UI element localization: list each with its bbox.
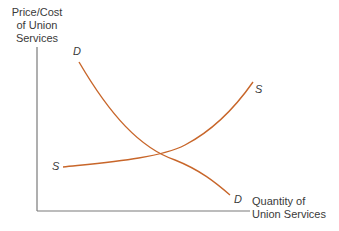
demand-curve <box>79 62 230 195</box>
demand-label-top: D <box>73 45 81 57</box>
supply-curve <box>63 82 253 167</box>
supply-label-right: S <box>255 83 262 95</box>
supply-demand-chart: Price/Cost of Union Services D D S S Qua… <box>0 0 339 231</box>
supply-label-left: S <box>52 160 59 172</box>
demand-label-bottom: D <box>234 193 242 205</box>
x-axis-label-line-1: Quantity of <box>252 195 326 208</box>
x-axis-label-line-2: Union Services <box>252 208 326 221</box>
x-axis-label: Quantity of Union Services <box>252 195 326 221</box>
